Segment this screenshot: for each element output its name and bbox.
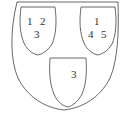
top-right-number-4: 4 <box>88 28 94 40</box>
top-left-number-1: 1 <box>27 15 33 27</box>
shield-diagram: 1 2 3 1 4 5 3 <box>0 0 128 114</box>
top-right-number-1: 1 <box>94 15 100 27</box>
top-left-number-2: 2 <box>40 15 46 27</box>
bottom-number-3: 3 <box>71 68 77 80</box>
top-right-number-5: 5 <box>101 28 107 40</box>
inner-shield-bottom <box>50 58 87 107</box>
top-left-number-3: 3 <box>34 28 40 40</box>
